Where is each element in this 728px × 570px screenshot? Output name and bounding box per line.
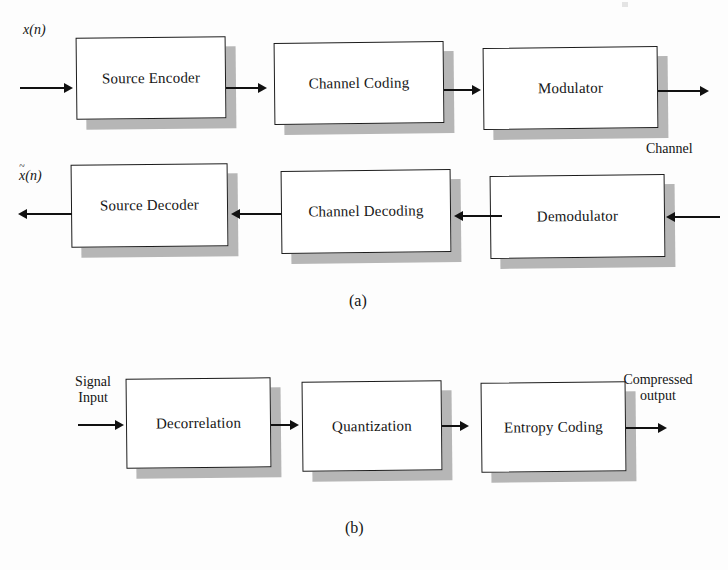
arrow-head-entropy-coding-to-output bbox=[658, 423, 667, 433]
arrow-line-demodulator-to-channel-decoding bbox=[462, 215, 502, 217]
block-source-encoder[interactable]: Source Encoder bbox=[76, 36, 227, 120]
channel-label: Channel bbox=[646, 141, 693, 157]
arrow-line-channel-decoding-to-source-decoder bbox=[239, 213, 281, 215]
arrow-line-input-to-decorrelation bbox=[78, 424, 120, 426]
signal-input-line2: Input bbox=[78, 390, 108, 405]
block-quantization[interactable]: Quantization bbox=[302, 380, 443, 471]
arrow-head-quantization-to-entropy-coding bbox=[460, 421, 469, 431]
arrow-line-input-to-source-encoder bbox=[20, 87, 70, 89]
block-channel-coding[interactable]: Channel Coding bbox=[274, 41, 445, 125]
block-label-quantization: Quantization bbox=[332, 417, 412, 435]
block-modulator[interactable]: Modulator bbox=[483, 46, 659, 130]
output-signal-base: x bbox=[19, 168, 25, 184]
figure-canvas: x(n) Source Encoder Channel Coding Modul… bbox=[0, 0, 728, 570]
arrow-head-demodulator-to-channel-decoding bbox=[454, 211, 463, 221]
arrow-head-input-to-source-encoder bbox=[64, 83, 73, 93]
block-channel-decoding[interactable]: Channel Decoding bbox=[281, 169, 452, 254]
block-label-source-decoder: Source Decoder bbox=[100, 196, 199, 214]
arrow-head-decorrelation-to-quantization bbox=[290, 420, 299, 430]
output-signal-arg: (n) bbox=[25, 168, 41, 183]
compressed-output-line1: Compressed bbox=[623, 372, 692, 387]
block-decorrelation[interactable]: Decorrelation bbox=[126, 377, 272, 469]
input-signal-label-xn: x(n) bbox=[23, 22, 46, 38]
arrow-head-modulator-to-channel bbox=[700, 86, 709, 96]
block-label-decorrelation: Decorrelation bbox=[156, 414, 241, 432]
block-label-entropy-coding: Entropy Coding bbox=[504, 418, 603, 436]
panel-caption-a: (a) bbox=[349, 292, 367, 310]
signal-input-line1: Signal bbox=[75, 374, 111, 389]
output-signal-label-xtilde-n: x(n) bbox=[19, 168, 42, 184]
block-source-decoder[interactable]: Source Decoder bbox=[71, 163, 229, 248]
compressed-output-label: Compressed output bbox=[602, 372, 714, 404]
arrow-line-channel-to-demodulator bbox=[675, 216, 720, 218]
input-signal-arg: (n) bbox=[29, 22, 45, 37]
scan-artifact bbox=[622, 2, 628, 7]
block-label-channel-coding: Channel Coding bbox=[309, 74, 410, 92]
arrow-head-channel-coding-to-modulator bbox=[472, 85, 481, 95]
compressed-output-line2: output bbox=[640, 388, 676, 403]
arrow-head-channel-to-demodulator bbox=[666, 212, 675, 222]
panel-caption-b: (b) bbox=[345, 519, 364, 537]
block-label-demodulator: Demodulator bbox=[537, 208, 619, 226]
block-label-source-encoder: Source Encoder bbox=[102, 69, 200, 87]
arrow-line-modulator-to-channel bbox=[658, 90, 706, 92]
arrow-head-source-encoder-to-channel-coding bbox=[258, 83, 267, 93]
block-label-channel-decoding: Channel Decoding bbox=[308, 202, 423, 220]
block-demodulator[interactable]: Demodulator bbox=[490, 174, 666, 259]
block-label-modulator: Modulator bbox=[538, 79, 603, 97]
arrow-head-channel-decoding-to-source-decoder bbox=[231, 209, 240, 219]
signal-input-label: Signal Input bbox=[62, 374, 124, 406]
arrow-head-source-decoder-to-output bbox=[18, 209, 27, 219]
arrow-head-input-to-decorrelation bbox=[115, 420, 124, 430]
arrow-line-source-decoder-to-output bbox=[27, 213, 72, 215]
